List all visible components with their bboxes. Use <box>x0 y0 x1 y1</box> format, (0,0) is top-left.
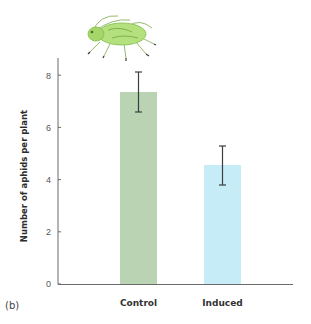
aphid-illustration-icon <box>88 16 156 61</box>
y-tick-label: 6 <box>46 123 51 133</box>
panel-label: (b) <box>5 300 19 311</box>
aphid-bar-chart: 0 2 4 6 8 Number of aphids per plant Con… <box>0 0 311 324</box>
category-label-induced: Induced <box>202 298 243 308</box>
y-tick-label: 2 <box>46 227 51 237</box>
y-ticks: 0 2 4 6 8 <box>46 71 61 289</box>
category-label-control: Control <box>120 298 157 308</box>
y-tick-label: 8 <box>46 71 51 81</box>
y-axis-title: Number of aphids per plant <box>19 110 29 242</box>
y-tick-label: 4 <box>46 175 51 185</box>
y-tick-label: 0 <box>46 279 51 289</box>
bar-control <box>120 92 157 284</box>
